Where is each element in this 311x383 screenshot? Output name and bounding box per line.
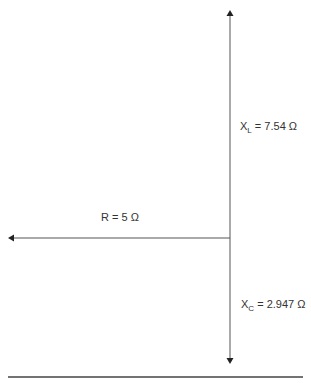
xl-arrowhead-icon — [227, 10, 234, 16]
xl-value: = 7.54 Ω — [255, 120, 297, 132]
xc-label: XC = 2.947 Ω — [241, 298, 305, 313]
xl-subscript: L — [247, 126, 251, 135]
r-label: R = 5 Ω — [101, 211, 139, 223]
xl-label: XL = 7.54 Ω — [240, 120, 297, 135]
r-arrowhead-icon — [8, 235, 14, 242]
xc-subscript: C — [248, 304, 254, 313]
xc-arrowhead-icon — [227, 358, 234, 364]
xc-value: = 2.947 Ω — [257, 298, 305, 310]
phasor-diagram — [0, 0, 311, 383]
